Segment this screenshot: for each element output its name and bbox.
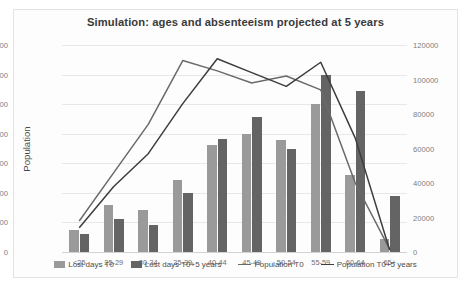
gridline [62, 252, 407, 253]
y-axis-left-tick-label: 4000 [0, 129, 8, 138]
chart-container: Simulation: ages and absenteeism project… [13, 9, 458, 278]
legend-swatch-icon [238, 264, 251, 265]
chart-title: Simulation: ages and absenteeism project… [14, 16, 457, 28]
y-axis-left-tick-label: 3000 [0, 159, 8, 168]
legend-item[interactable]: Population T0+5 years [321, 260, 417, 269]
legend-swatch-icon [321, 264, 334, 265]
y-axis-left-tick-label: 6000 [0, 70, 8, 79]
legend-label: Population T0 [254, 260, 303, 269]
legend-item[interactable]: Lost days T0+5 years [131, 260, 222, 269]
y-axis-right-tick-label: 100000 [413, 75, 453, 84]
y-axis-left-tick-label: 2000 [0, 188, 8, 197]
y-axis-right-tick-label: 0 [413, 248, 453, 257]
legend-label: Lost days T0 [68, 260, 114, 269]
legend-swatch-icon [131, 261, 142, 268]
y-axis-left-tick-label: 7000 [0, 41, 8, 50]
legend-swatch-icon [54, 261, 65, 268]
y-axis-right-tick-label: 20000 [413, 213, 453, 222]
y-axis-right-tick-label: 120000 [413, 41, 453, 50]
legend-item[interactable]: Population T0 [238, 260, 303, 269]
line-series-group [62, 45, 407, 252]
y-axis-left-title: Population [21, 126, 32, 171]
plot-area: 01000200030004000500060007000 0200004000… [62, 45, 407, 252]
legend-label: Population T0+5 years [337, 260, 417, 269]
y-axis-right-tick-label: 60000 [413, 144, 453, 153]
legend-label: Lost days T0+5 years [145, 260, 222, 269]
line-series [79, 61, 390, 250]
chart-legend: Lost days T0Lost days T0+5 yearsPopulati… [14, 260, 457, 269]
y-axis-left-tick-label: 5000 [0, 100, 8, 109]
y-axis-right-tick-label: 40000 [413, 179, 453, 188]
y-axis-right-tick-label: 80000 [413, 110, 453, 119]
y-axis-left-tick-label: 1000 [0, 218, 8, 227]
y-axis-left-tick-label: 0 [0, 248, 8, 257]
legend-item[interactable]: Lost days T0 [54, 260, 114, 269]
